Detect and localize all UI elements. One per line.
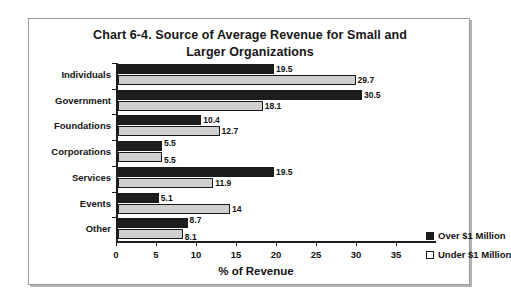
category-label: Foundations <box>0 120 111 131</box>
x-axis-tick <box>236 241 237 246</box>
bar-value-label: 19.5 <box>276 167 293 177</box>
category-label: Services <box>0 172 111 183</box>
bar-over[interactable]: 30.5 <box>118 90 362 100</box>
category-tick <box>112 192 117 193</box>
bar-over[interactable]: 8.7 <box>118 218 188 228</box>
bar-value-label: 12.7 <box>222 126 239 136</box>
legend-label-over: Over $1 Million <box>438 230 506 241</box>
bar-value-label: 5.1 <box>161 193 173 203</box>
x-axis-tick <box>316 241 317 246</box>
x-axis-tick-label: 20 <box>271 249 282 260</box>
x-axis-tick <box>356 241 357 246</box>
chart-legend: Over $1 Million Under $1 Million <box>426 228 511 266</box>
x-axis-title: % of Revenue <box>116 265 396 277</box>
bar-group: Events5.114 <box>118 192 398 218</box>
x-axis-tick-label: 25 <box>311 249 322 260</box>
x-axis-tick <box>116 241 117 246</box>
bar-group: Foundations10.412.7 <box>118 114 398 140</box>
legend-swatch-icon-over <box>426 232 434 240</box>
bar-under[interactable]: 5.5 <box>118 152 162 162</box>
category-tick <box>112 114 117 115</box>
legend-swatch-icon-under <box>426 251 434 259</box>
x-axis-tick-label: 15 <box>231 249 242 260</box>
bar-under[interactable]: 18.1 <box>118 101 263 111</box>
x-axis-tick-label: 35 <box>391 249 402 260</box>
plot-area: Individuals19.529.7Government30.518.1Fou… <box>116 63 436 243</box>
category-label: Other <box>0 223 111 234</box>
bar-under[interactable]: 29.7 <box>118 75 356 85</box>
bar-value-label: 18.1 <box>265 101 282 111</box>
chart-title-line-1: Chart 6-4. Source of Average Revenue for… <box>93 28 407 42</box>
legend-label-under: Under $1 Million <box>438 249 511 260</box>
x-axis-tick-label: 0 <box>113 249 118 260</box>
bar-value-label: 5.5 <box>164 138 176 148</box>
bar-under[interactable]: 12.7 <box>118 126 220 136</box>
bar-value-label: 30.5 <box>364 90 381 100</box>
category-tick <box>112 63 117 64</box>
chart-figure-frame: Chart 6-4. Source of Average Revenue for… <box>28 18 470 285</box>
bar-value-label: 29.7 <box>358 75 375 85</box>
x-axis-tick <box>276 241 277 246</box>
bar-group: Services19.511.9 <box>118 166 398 192</box>
bar-group: Other8.78.1 <box>118 217 398 243</box>
bar-value-label: 5.5 <box>164 155 176 165</box>
x-axis-tick-label: 10 <box>191 249 202 260</box>
bar-over[interactable]: 5.1 <box>118 193 159 203</box>
category-tick <box>112 89 117 90</box>
bar-over[interactable]: 19.5 <box>118 167 274 177</box>
category-label: Government <box>0 95 111 106</box>
bar-under[interactable]: 11.9 <box>118 178 213 188</box>
x-axis-tick-label: 5 <box>153 249 158 260</box>
bar-value-label: 8.7 <box>190 215 202 225</box>
bar-value-label: 8.1 <box>185 232 197 242</box>
category-label: Corporations <box>0 146 111 157</box>
x-axis-tick-label: 30 <box>351 249 362 260</box>
chart-title-line-2: Larger Organizations <box>29 44 471 61</box>
bar-over[interactable]: 5.5 <box>118 141 162 151</box>
legend-entry-under-1-million: Under $1 Million <box>426 247 511 262</box>
bar-value-label: 10.4 <box>203 115 220 125</box>
x-axis-tick <box>396 241 397 246</box>
category-label: Events <box>0 198 111 209</box>
bar-under[interactable]: 14 <box>118 204 230 214</box>
category-label: Individuals <box>0 69 111 80</box>
legend-entry-over-1-million: Over $1 Million <box>426 228 511 243</box>
category-tick <box>112 217 117 218</box>
bar-under[interactable]: 8.1 <box>118 229 183 239</box>
bar-value-label: 11.9 <box>215 178 231 188</box>
bar-over[interactable]: 10.4 <box>118 115 201 125</box>
bar-value-label: 14 <box>232 204 241 214</box>
category-tick <box>112 166 117 167</box>
chart-title: Chart 6-4. Source of Average Revenue for… <box>29 27 471 61</box>
category-tick <box>112 140 117 141</box>
bar-group: Corporations5.55.5 <box>118 140 398 166</box>
bar-over[interactable]: 19.5 <box>118 64 274 74</box>
bar-group: Government30.518.1 <box>118 89 398 115</box>
bar-group: Individuals19.529.7 <box>118 63 398 89</box>
x-axis-tick <box>156 241 157 246</box>
bar-value-label: 19.5 <box>276 64 293 74</box>
x-axis-tick <box>196 241 197 246</box>
